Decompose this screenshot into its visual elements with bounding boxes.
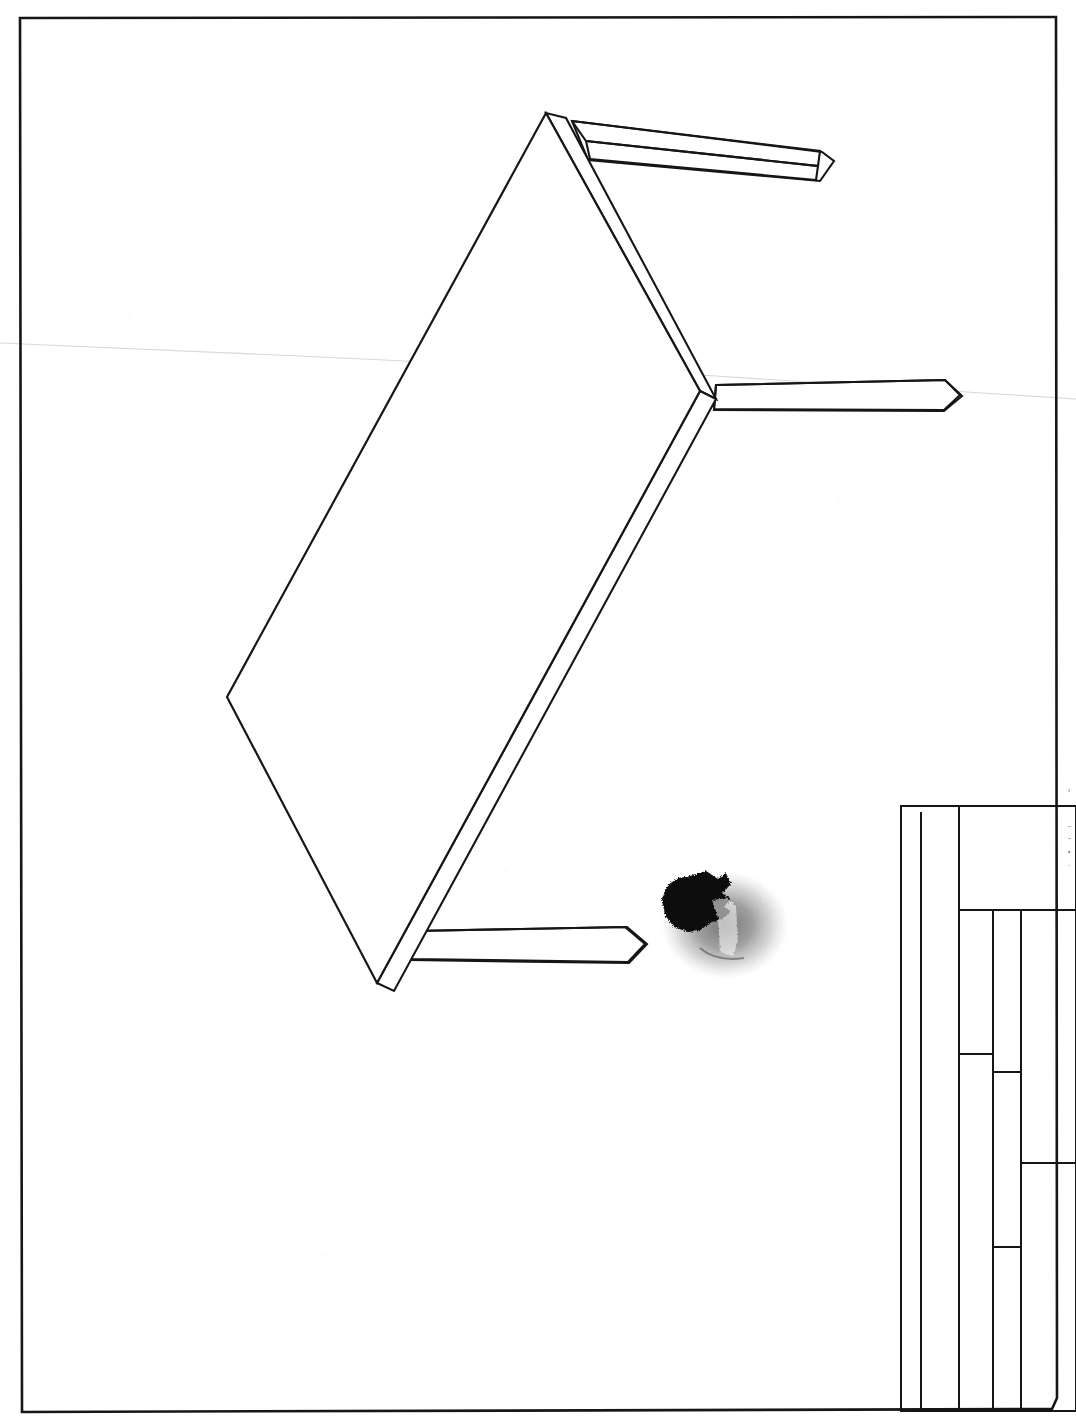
leg-front-left-body xyxy=(410,927,647,963)
drawing-sheet xyxy=(0,0,1076,1427)
edge-text-fragment-1: – xyxy=(1068,822,1071,829)
edge-text-fragment-3: • xyxy=(1068,848,1070,855)
ink-blot-artifact xyxy=(659,869,791,981)
technical-drawing-canvas xyxy=(0,0,1076,1427)
edge-text-fragment-2: – xyxy=(1068,834,1071,841)
edge-text-fragment-0: ‹ xyxy=(1068,787,1070,794)
edge-text-fragment-4: · xyxy=(1068,862,1070,869)
leg-right xyxy=(714,380,962,411)
leg-front-left xyxy=(410,927,647,963)
